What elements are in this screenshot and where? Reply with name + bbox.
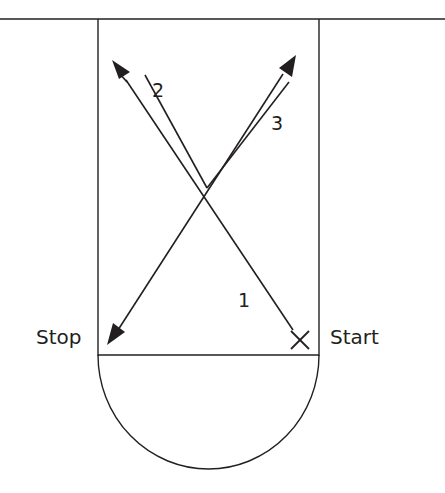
drill-diagram: Stop Start 1 2 3	[0, 0, 445, 493]
diagram-canvas: Stop Start 1 2 3	[0, 0, 445, 493]
segment-3-label: 3	[271, 112, 283, 134]
stop-arrow-head-icon	[107, 323, 125, 345]
path-1-2-outer-line	[126, 80, 293, 330]
path-3-outer-line	[118, 74, 283, 330]
start-marker-icon	[291, 331, 309, 349]
arrow-3-head-icon	[279, 55, 296, 77]
semicircle	[98, 355, 319, 469]
start-label: Start	[330, 325, 379, 349]
segment-2-label: 2	[152, 79, 164, 101]
segment-1-label: 1	[238, 289, 250, 311]
stop-label: Stop	[36, 325, 81, 349]
